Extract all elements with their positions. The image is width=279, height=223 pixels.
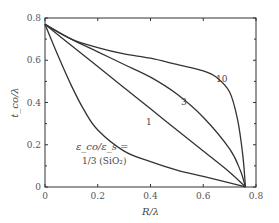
x-tick-label: 0.2 xyxy=(91,191,105,201)
curve-1 xyxy=(45,24,245,187)
chart: 000.20.20.40.40.60.60.80.8R/λt_co/λ 1031… xyxy=(0,0,279,223)
curve-label-10: 10 xyxy=(216,74,228,84)
x-tick-label: 0.4 xyxy=(143,191,158,201)
annotation-line1: ε_co/ε_s = xyxy=(76,141,128,153)
y-tick-label: 0.4 xyxy=(27,98,42,108)
y-axis-label: t_co/λ xyxy=(9,87,21,117)
y-tick-label: 0 xyxy=(35,182,41,192)
y-tick-label: 0.8 xyxy=(27,13,42,23)
y-tick-label: 0.2 xyxy=(27,140,41,150)
x-tick-label: 0 xyxy=(42,191,48,201)
x-tick-label: 0.6 xyxy=(196,191,211,201)
curves xyxy=(45,24,245,187)
x-tick-label: 0.8 xyxy=(249,191,264,201)
plot-axes: 000.20.20.40.40.60.60.80.8R/λt_co/λ xyxy=(9,13,263,217)
y-tick-label: 0.6 xyxy=(27,55,42,65)
curve-label-3: 3 xyxy=(181,97,187,107)
curve-label-1: 1 xyxy=(146,117,152,127)
annotation-line2: 1/3 (SiO₂) xyxy=(82,156,126,166)
x-axis-label: R/λ xyxy=(141,206,159,217)
